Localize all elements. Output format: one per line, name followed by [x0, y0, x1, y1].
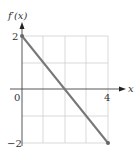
y-axis-label: f′(x): [7, 10, 28, 21]
end-point: [106, 141, 110, 145]
y-axis: [20, 22, 25, 146]
tick-y-2: 2: [12, 31, 18, 42]
tick-x-0: 0: [14, 92, 20, 103]
chart-canvas: f′(x) x 2 −2 0 4: [0, 0, 139, 156]
tick-y-neg2: −2: [7, 138, 22, 149]
x-axis-arrow-icon: [119, 87, 126, 92]
tick-x-4: 4: [104, 92, 110, 103]
y-axis-arrow-icon: [20, 22, 25, 29]
x-axis: [10, 87, 126, 92]
start-point: [20, 34, 24, 38]
x-axis-label: x: [128, 83, 134, 94]
